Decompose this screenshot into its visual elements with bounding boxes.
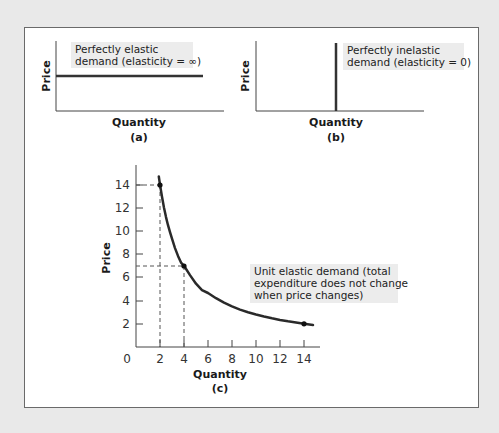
annotation-b-line1: Perfectly inelastic: [347, 44, 440, 56]
point-4-7: [181, 263, 186, 268]
x-tick-label: 6: [204, 352, 212, 366]
caption-c: (c): [212, 382, 229, 395]
point-2-14: [157, 182, 162, 187]
caption-b: (b): [327, 131, 345, 144]
y-ticks-c: [136, 185, 143, 324]
y-tick-label: 4: [122, 294, 130, 308]
point-14-2: [301, 321, 306, 326]
annotation-a-line1: Perfectly elastic: [75, 43, 159, 55]
demand-curve-c: [159, 177, 184, 272]
panel-a: Perfectly elastic demand (elasticity = ∞…: [40, 41, 224, 144]
xlabel-b: Quantity: [309, 116, 363, 129]
y-tick-label: 6: [122, 270, 130, 284]
demand-elasticity-figure: Perfectly elastic demand (elasticity = ∞…: [0, 0, 499, 433]
xlabel-c: Quantity: [193, 368, 247, 381]
x-tick-label: 14: [296, 352, 311, 366]
y-tick-label: 10: [115, 224, 130, 238]
x-tick-label: 2: [156, 352, 164, 366]
x-tick-label: 10: [248, 352, 263, 366]
annotation-c-line2: expenditure does not change: [254, 277, 408, 289]
ylabel-b: Price: [239, 60, 252, 91]
y-tick-label: 14: [115, 178, 130, 192]
ylabel-a: Price: [40, 60, 53, 91]
ylabel-c: Price: [100, 242, 113, 273]
annotation-b-line2: demand (elasticity = 0): [347, 56, 471, 68]
xlabel-a: Quantity: [112, 116, 166, 129]
unit-elastic-curve: [159, 173, 256, 346]
x-tick-label: 12: [272, 352, 287, 366]
x-tick-label: 4: [180, 352, 188, 366]
panel-c: Unit elastic demand (total expenditure d…: [100, 165, 408, 395]
y-tick-label: 12: [115, 201, 130, 215]
x-tick-label: 0: [123, 352, 131, 366]
y-tick-label: 2: [122, 317, 130, 331]
annotation-c-line1: Unit elastic demand (total: [254, 265, 391, 277]
y-tick-label: 8: [122, 247, 130, 261]
annotation-a-line2: demand (elasticity = ∞): [75, 55, 201, 67]
annotation-c-line3: when price changes): [254, 289, 363, 301]
unit-elastic-demand-curve: [159, 177, 232, 309]
x-tick-label: 8: [228, 352, 236, 366]
caption-a: (a): [130, 131, 147, 144]
panel-b: Perfectly inelastic demand (elasticity =…: [239, 41, 471, 144]
x-ticks-c: [160, 340, 304, 347]
dashed-guides: [136, 185, 184, 347]
